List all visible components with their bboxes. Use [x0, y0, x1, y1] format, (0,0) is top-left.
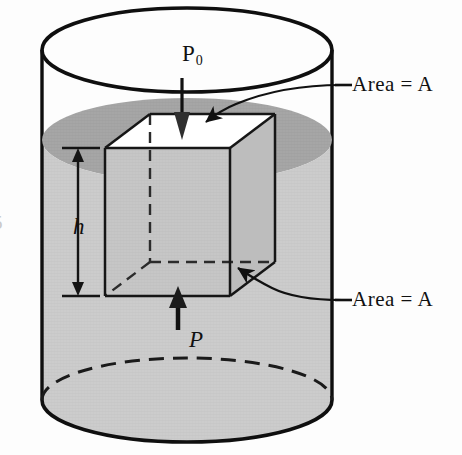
figure-drawing-canvas	[0, 0, 462, 455]
submerged-box	[105, 114, 275, 296]
physics-figure-fluid-pressure: 5	[0, 0, 462, 455]
label-depth: h	[73, 215, 85, 238]
label-area-bottom: Area = A	[352, 289, 433, 310]
label-pressure-bottom: P	[189, 328, 203, 351]
label-pressure-top: P0	[182, 42, 202, 65]
label-area-top: Area = A	[352, 74, 433, 95]
label-pressure-top-symbol: P	[182, 41, 195, 66]
box-front-face	[105, 148, 230, 296]
label-pressure-top-subscript: 0	[196, 53, 203, 68]
